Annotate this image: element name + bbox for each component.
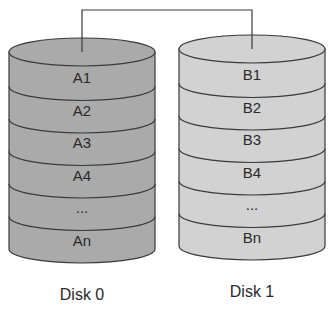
segment-label: B1 (243, 66, 261, 83)
segment-label: A1 (73, 69, 91, 86)
segment-label: ... (246, 196, 259, 213)
segment-label: B3 (243, 131, 261, 148)
segment-label: An (73, 232, 91, 249)
disk-1-cylinder: B1B2B3B4...Bn (179, 35, 325, 260)
segment-label: B2 (243, 99, 261, 116)
segment-label: A3 (73, 134, 91, 151)
disk-1-label: Disk 1 (230, 283, 275, 300)
disk-0-label: Disk 0 (60, 286, 105, 303)
segment-label: B4 (243, 164, 261, 181)
segment-label: Bn (243, 229, 261, 246)
segment-label: A4 (73, 167, 91, 184)
raid1-diagram: A1A2A3A4...An B1B2B3B4...Bn Disk 0 Disk … (0, 0, 335, 311)
segment-label: A2 (73, 102, 91, 119)
segment-label: ... (76, 199, 89, 216)
disk-0-cylinder: A1A2A3A4...An (9, 38, 155, 263)
